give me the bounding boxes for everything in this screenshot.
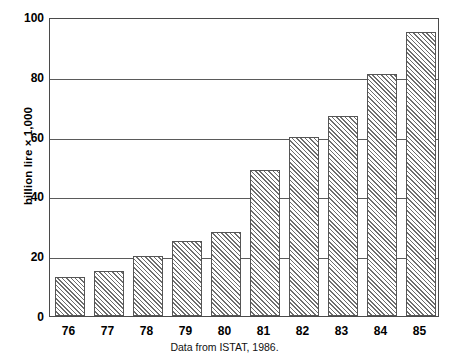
x-tick-label: 84 (361, 325, 400, 338)
y-tick-label: 20 (6, 251, 44, 263)
x-axis-tick-labels: 76777879808182838485 (49, 320, 439, 338)
bar-76 (55, 277, 85, 316)
bar-84 (367, 74, 397, 316)
bar-77 (94, 271, 124, 316)
y-axis-label: billion lire × 1,000 (22, 66, 34, 246)
y-tick-label: 0 (6, 311, 44, 323)
bar-85 (406, 32, 436, 316)
figure-caption: Data from ISTAT, 1986. (0, 341, 449, 353)
x-tick-label: 80 (205, 325, 244, 338)
x-tick-label: 77 (88, 325, 127, 338)
x-tick-label: 82 (283, 325, 322, 338)
x-tick-label: 79 (166, 325, 205, 338)
bar-82 (289, 137, 319, 316)
x-tick-label: 83 (322, 325, 361, 338)
bar-78 (133, 256, 163, 316)
x-tick-label: 76 (49, 325, 88, 338)
plot-area (49, 18, 439, 317)
bar-79 (172, 241, 202, 316)
bar-81 (250, 170, 280, 317)
bar-series (50, 19, 438, 316)
x-tick-label: 78 (127, 325, 166, 338)
y-tick-label: 100 (6, 12, 44, 24)
x-tick-label: 81 (244, 325, 283, 338)
bar-80 (211, 232, 241, 316)
figure-container: billion lire × 1,000 020406080100 767778… (0, 0, 449, 361)
page-header-fragment (8, 0, 308, 5)
x-tick-label: 85 (400, 325, 439, 338)
bar-83 (328, 116, 358, 316)
